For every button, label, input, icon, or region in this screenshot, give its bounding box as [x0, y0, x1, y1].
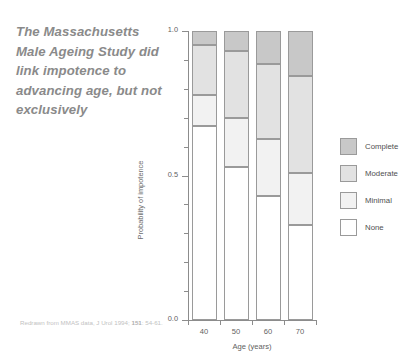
bar-segment-moderate — [256, 64, 281, 139]
bar-segment-none — [224, 167, 249, 320]
x-tick — [220, 320, 221, 325]
legend-item-moderate: Moderate — [340, 160, 410, 187]
x-tick-label: 70 — [285, 327, 315, 336]
x-tick-label: 40 — [189, 327, 219, 336]
x-tick-label: 50 — [221, 327, 251, 336]
x-axis-title: Age (years) — [188, 342, 316, 351]
y-tick-minor — [184, 204, 188, 205]
bar-50 — [224, 31, 249, 320]
legend-label: None — [365, 223, 384, 232]
bar-segment-moderate — [192, 45, 217, 94]
x-tick — [284, 320, 285, 325]
legend-label: Moderate — [365, 169, 398, 178]
legend-item-minimal: Minimal — [340, 187, 410, 214]
legend-swatch-moderate — [340, 165, 357, 182]
chart-legend: CompleteModerateMinimalNone — [340, 133, 410, 241]
y-tick-major: 1.0 — [182, 31, 188, 32]
legend-swatch-minimal — [340, 192, 357, 209]
legend-swatch-none — [340, 219, 357, 236]
bar-segment-complete — [288, 31, 313, 76]
bar-40 — [192, 31, 217, 320]
legend-label: Minimal — [365, 196, 392, 205]
bar-segment-moderate — [224, 51, 249, 117]
y-tick-minor — [184, 89, 188, 90]
x-tick-label: 60 — [253, 327, 283, 336]
stacked-bar-chart: Probability of impotence 0.00.51.0 40506… — [140, 20, 340, 354]
bar-segment-moderate — [288, 76, 313, 173]
y-tick-label: 0.5 — [168, 170, 178, 179]
y-tick-minor — [184, 291, 188, 292]
y-tick-major: 0.5 — [182, 176, 188, 177]
bar-60 — [256, 31, 281, 320]
bar-segment-none — [288, 225, 313, 320]
bar-segment-complete — [192, 31, 217, 45]
y-tick-minor — [184, 147, 188, 148]
legend-label: Complete — [365, 142, 398, 151]
legend-item-complete: Complete — [340, 133, 410, 160]
caption-line-1: Redrawn from MMAS data, J Urol 1994; — [20, 319, 130, 326]
legend-swatch-complete — [340, 138, 357, 155]
y-tick-minor — [184, 118, 188, 119]
bar-segment-minimal — [192, 95, 217, 127]
y-axis-line — [188, 31, 189, 320]
y-tick-minor — [184, 233, 188, 234]
bar-70 — [288, 31, 313, 320]
y-tick-minor — [184, 60, 188, 61]
plot-area: 0.00.51.0 40506070 Age (years) — [188, 31, 316, 320]
bar-segment-none — [192, 126, 217, 320]
y-axis-title: Probability of impotence — [136, 130, 145, 270]
bar-segment-minimal — [256, 139, 281, 195]
y-tick-label: 1.0 — [168, 25, 178, 34]
y-tick-minor — [184, 262, 188, 263]
bar-segment-minimal — [224, 118, 249, 167]
bar-segment-minimal — [288, 173, 313, 225]
legend-item-none: None — [340, 214, 410, 241]
x-tick — [316, 320, 317, 325]
bar-segment-complete — [224, 31, 249, 51]
y-tick-label: 0.0 — [168, 314, 178, 323]
bar-segment-complete — [256, 31, 281, 64]
bar-segment-none — [256, 196, 281, 320]
x-tick — [252, 320, 253, 325]
x-tick — [188, 320, 189, 325]
